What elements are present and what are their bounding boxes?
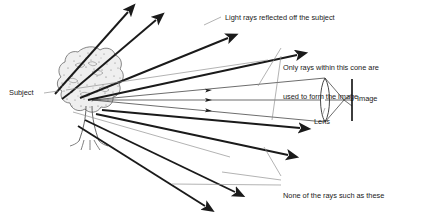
label-subject: Subject [9,88,34,98]
stray-ray-down-1 [102,110,300,128]
annotation-light-rays: Light rays reflected off the subject [225,13,335,23]
stray-ray-down-2 [96,114,288,155]
annotation-cone-line-1: Only rays within this cone are [283,63,379,73]
diagram-canvas: Subject Lens Image Light rays reflected … [0,0,433,216]
annotation-cone: Only rays within this cone are used to f… [283,44,379,121]
stray-ray-down-4 [78,126,205,206]
annotation-none: None of the rays such as these enter the… [283,172,398,216]
leader-none-note-c [172,184,281,185]
leader-cone-note-b [272,56,281,120]
leader-none-note-b [222,172,281,180]
annotation-none-line-1: None of the rays such as these [283,191,398,201]
stray-rays-downward [78,110,300,206]
annotation-cone-line-2: used to form the image [283,92,379,102]
leader-top-note [204,17,221,25]
stray-ray-down-3 [85,120,235,192]
